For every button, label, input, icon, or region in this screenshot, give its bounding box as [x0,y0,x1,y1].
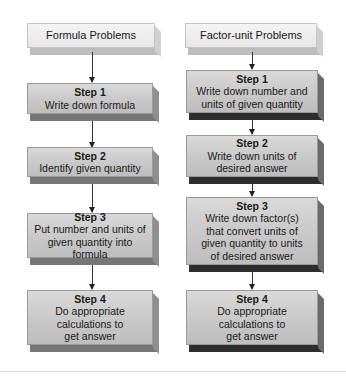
box-shadow-bottom [30,177,159,184]
box-shadow-bottom [189,345,324,352]
box-shadow-side [155,26,161,57]
step-text: calculations to [219,318,286,331]
box-shadow-side [318,138,324,186]
box-shadow-bottom [30,48,161,55]
box-shadow-bottom [30,114,159,121]
formula-step-3: Step 3 Put number and units of given qua… [27,213,153,258]
box-shadow-side [153,150,159,186]
step-text: Write down formula [45,99,135,112]
factor-step-3: Step 3 Write down factor(s) that convert… [186,197,318,265]
step-text: of desired answer [211,250,294,263]
box-shadow-bottom [188,48,323,55]
formula-step-4: Step 4 Do appropriate calculations to ge… [27,290,153,345]
arrow-down [252,52,253,69]
step-title: Step 4 [236,293,268,306]
header-label: Factor-unit Problems [200,29,302,42]
step-text: calculations to [57,318,124,331]
box-shadow-bottom [189,113,324,120]
step-text: Do appropriate [55,305,124,318]
arrow-down [92,52,93,82]
step-title: Step 1 [236,73,268,86]
box-shadow-bottom [189,265,324,272]
step-text: Do appropriate [217,305,286,318]
step-title: Step 2 [74,150,106,163]
step-title: Step 1 [74,86,106,99]
formula-problems-header: Formula Problems [27,23,155,48]
bottom-divider [0,371,346,372]
arrow-down [92,265,93,289]
step-text: get answer [64,330,115,343]
step-text: that convert units of [206,225,298,238]
step-title: Step 3 [74,211,106,224]
arrow-down [92,184,93,212]
factor-step-2: Step 2 Write down units of desired answe… [186,135,318,177]
box-shadow-side [153,86,159,123]
step-text: Write down units of [207,150,296,163]
box-shadow-side [153,293,159,354]
step-text: get answer [226,330,277,343]
step-text: given quantity to units [201,237,303,250]
box-shadow-side [318,293,324,354]
arrow-down [252,272,253,289]
formula-step-2: Step 2 Identify given quantity [27,147,153,177]
step-title: Step 2 [236,137,268,150]
box-shadow-side [318,73,324,122]
box-shadow-side [153,216,159,267]
formula-step-1: Step 1 Write down formula [27,83,153,114]
arrow-down [252,184,253,196]
box-shadow-side [318,200,324,274]
factor-step-1: Step 1 Write down number and units of gi… [186,70,318,113]
box-shadow-bottom [30,345,159,352]
step-text: units of given quantity [201,98,303,111]
step-text: given quantity into formula [31,236,149,261]
arrow-down [92,121,93,147]
step-title: Step 4 [74,293,106,306]
step-title: Step 3 [236,200,268,213]
header-label: Formula Problems [46,29,136,42]
step-text: Put number and units of [34,223,146,236]
step-text: Write down factor(s) [205,212,299,225]
box-shadow-side [317,26,323,57]
factor-unit-problems-header: Factor-unit Problems [185,23,317,48]
step-text: Write down number and [196,85,307,98]
arrow-down [252,120,253,134]
factor-step-4: Step 4 Do appropriate calculations to ge… [186,290,318,345]
box-shadow-bottom [189,177,324,184]
step-text: desired answer [216,162,287,175]
step-text: Identify given quantity [39,162,141,175]
